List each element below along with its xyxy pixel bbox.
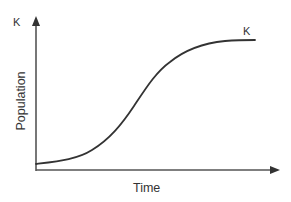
- curve-end-k-label: K: [243, 25, 251, 37]
- x-axis-arrow-icon: [270, 166, 280, 174]
- y-axis-k-label: K: [13, 16, 21, 28]
- x-axis-label: Time: [133, 181, 160, 195]
- logistic-curve: [36, 40, 255, 164]
- y-axis-label: Population: [14, 71, 28, 130]
- y-axis-arrow-icon: [32, 16, 40, 26]
- logistic-growth-chart: K K Time Population: [0, 0, 291, 202]
